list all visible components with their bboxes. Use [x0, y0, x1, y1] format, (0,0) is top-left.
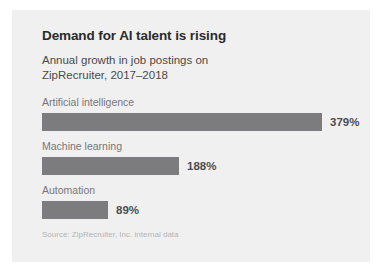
bar-row: 89% — [42, 201, 372, 219]
chart-source-note: Source: ZipRecruiter, Inc. internal data — [42, 229, 372, 240]
chart-title: Demand for AI talent is rising — [42, 28, 372, 44]
bar-value-label: 89% — [116, 204, 139, 216]
infographic-figure: Demand for AI talent is rising Annual gr… — [0, 0, 382, 275]
bar-fill — [42, 157, 179, 175]
bar-row: 379% — [42, 113, 372, 131]
bar-group-machine-learning: Machine learning 188% — [42, 140, 372, 175]
bar-category-label: Artificial intelligence — [42, 96, 372, 109]
bar-group-automation: Automation 89% — [42, 184, 372, 219]
bar-value-label: 188% — [187, 160, 216, 172]
bar-fill — [42, 113, 322, 131]
bar-row: 188% — [42, 157, 372, 175]
chart-subtitle: Annual growth in job postings on ZipRecr… — [42, 53, 252, 82]
chart-card: Demand for AI talent is rising Annual gr… — [12, 10, 370, 262]
bar-fill — [42, 201, 108, 219]
chart-content: Demand for AI talent is rising Annual gr… — [42, 28, 372, 240]
bar-group-artificial-intelligence: Artificial intelligence 379% — [42, 96, 372, 131]
bar-category-label: Automation — [42, 184, 372, 197]
bar-category-label: Machine learning — [42, 140, 372, 153]
bar-value-label: 379% — [330, 116, 359, 128]
